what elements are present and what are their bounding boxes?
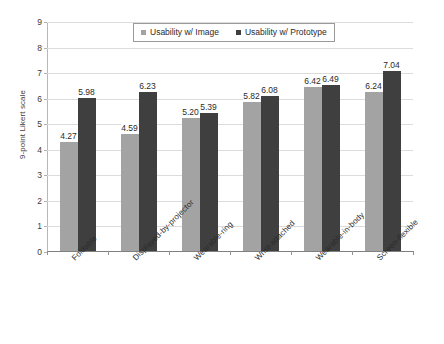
legend-label: Usability w/ Image — [150, 27, 219, 37]
gridline — [47, 48, 413, 49]
legend-label: Usability w/ Prototype — [245, 27, 327, 37]
gridline — [47, 150, 413, 151]
y-tick-mark — [44, 226, 47, 227]
y-tick-label: 7 — [37, 68, 42, 78]
x-tick-mark — [47, 251, 48, 255]
bar-value-label: 6.42 — [304, 76, 322, 86]
bar-value-label: 6.49 — [322, 74, 340, 84]
x-tick-mark — [108, 251, 109, 255]
dark-gray-square-icon — [236, 30, 241, 35]
y-tick-label: 1 — [37, 221, 42, 231]
bar-value-label: 5.82 — [243, 91, 261, 101]
x-tick-mark — [352, 251, 353, 255]
y-axis-title: 9-point Likert scale — [18, 65, 27, 185]
bar-chart: 9-point Likert scale 0123456789 4.275.98… — [0, 0, 444, 344]
gridline — [47, 124, 413, 125]
bar — [365, 92, 383, 251]
bar-value-label: 6.24 — [365, 81, 383, 91]
bar — [60, 142, 78, 251]
y-tick-mark — [44, 150, 47, 151]
y-tick-mark — [44, 99, 47, 100]
y-tick-mark — [44, 175, 47, 176]
y-tick-label: 5 — [37, 119, 42, 129]
light-gray-square-icon — [141, 30, 146, 35]
y-tick-label: 6 — [37, 94, 42, 104]
bar — [322, 85, 340, 251]
bar — [121, 134, 139, 251]
gridline — [47, 99, 413, 100]
bar — [139, 92, 157, 251]
bar — [243, 102, 261, 251]
x-tick-mark — [291, 251, 292, 255]
legend-entry-usability-image: Usability w/ Image — [141, 27, 219, 37]
bar-value-label: 6.08 — [261, 85, 279, 95]
chart-legend: Usability w/ Image Usability w/ Prototyp… — [133, 23, 335, 42]
legend-entry-usability-prototype: Usability w/ Prototype — [236, 27, 327, 37]
y-axis-line — [47, 22, 48, 252]
bar — [78, 98, 96, 251]
x-tick-mark — [413, 251, 414, 255]
bar-value-label: 4.27 — [60, 131, 78, 141]
y-tick-mark — [44, 73, 47, 74]
bar — [200, 113, 218, 251]
y-tick-mark — [44, 48, 47, 49]
bar — [261, 96, 279, 251]
bar — [304, 87, 322, 251]
gridline — [47, 73, 413, 74]
y-tick-label: 9 — [37, 17, 42, 27]
bar-value-label: 6.23 — [139, 81, 157, 91]
bar — [182, 118, 200, 251]
x-tick-mark — [230, 251, 231, 255]
y-tick-mark — [44, 201, 47, 202]
gridline — [47, 201, 413, 202]
bar-value-label: 5.98 — [78, 87, 96, 97]
bar-value-label: 7.04 — [383, 60, 401, 70]
gridline — [47, 175, 413, 176]
bar-value-label: 5.39 — [200, 102, 218, 112]
bar-value-label: 5.20 — [182, 107, 200, 117]
bar-value-label: 4.59 — [121, 123, 139, 133]
y-tick-label: 0 — [37, 247, 42, 257]
bar — [383, 71, 401, 251]
y-tick-label: 8 — [37, 43, 42, 53]
y-tick-label: 3 — [37, 170, 42, 180]
y-tick-mark — [44, 22, 47, 23]
y-tick-mark — [44, 124, 47, 125]
y-tick-label: 2 — [37, 196, 42, 206]
x-tick-mark — [169, 251, 170, 255]
y-tick-label: 4 — [37, 145, 42, 155]
